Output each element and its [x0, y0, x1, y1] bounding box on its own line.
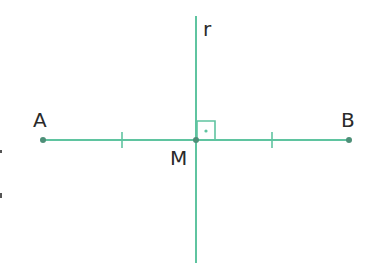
point-a [40, 137, 46, 143]
point-m [193, 137, 199, 143]
label-r: r [203, 17, 212, 41]
right-angle-dot [204, 129, 207, 132]
label-b: B [341, 108, 355, 132]
label-a: A [33, 108, 47, 132]
label-m: M [170, 146, 187, 170]
point-b [346, 137, 352, 143]
edge-mark [0, 193, 2, 198]
edge-mark [0, 150, 2, 153]
diagram-canvas: A B M r [0, 0, 385, 270]
